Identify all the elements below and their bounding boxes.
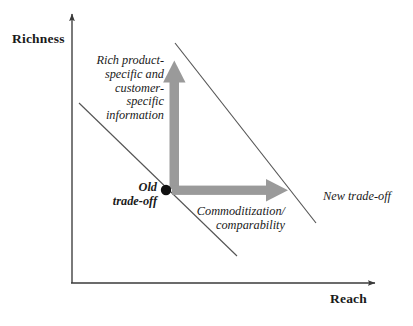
reach-increase-arrow <box>172 179 288 201</box>
y-axis-label: Richness <box>12 31 65 46</box>
old-trade-off-label: Old trade-off <box>72 181 157 209</box>
new-trade-off-label: New trade-off <box>323 190 391 204</box>
horizontal-arrow-caption: Commoditization/ comparability <box>175 205 285 233</box>
diagram-canvas: Richness Reach Rich product- specific an… <box>0 0 413 326</box>
new-trade-off-frontier-line <box>175 43 316 223</box>
x-axis-label: Reach <box>330 291 367 306</box>
old-trade-off-point <box>161 185 171 195</box>
vertical-arrow-caption: Rich product- specific and customer- spe… <box>68 54 164 123</box>
diagram-vector-layer <box>0 0 413 326</box>
richness-increase-arrow <box>163 61 185 190</box>
old-trade-off-frontier-line <box>79 103 237 256</box>
